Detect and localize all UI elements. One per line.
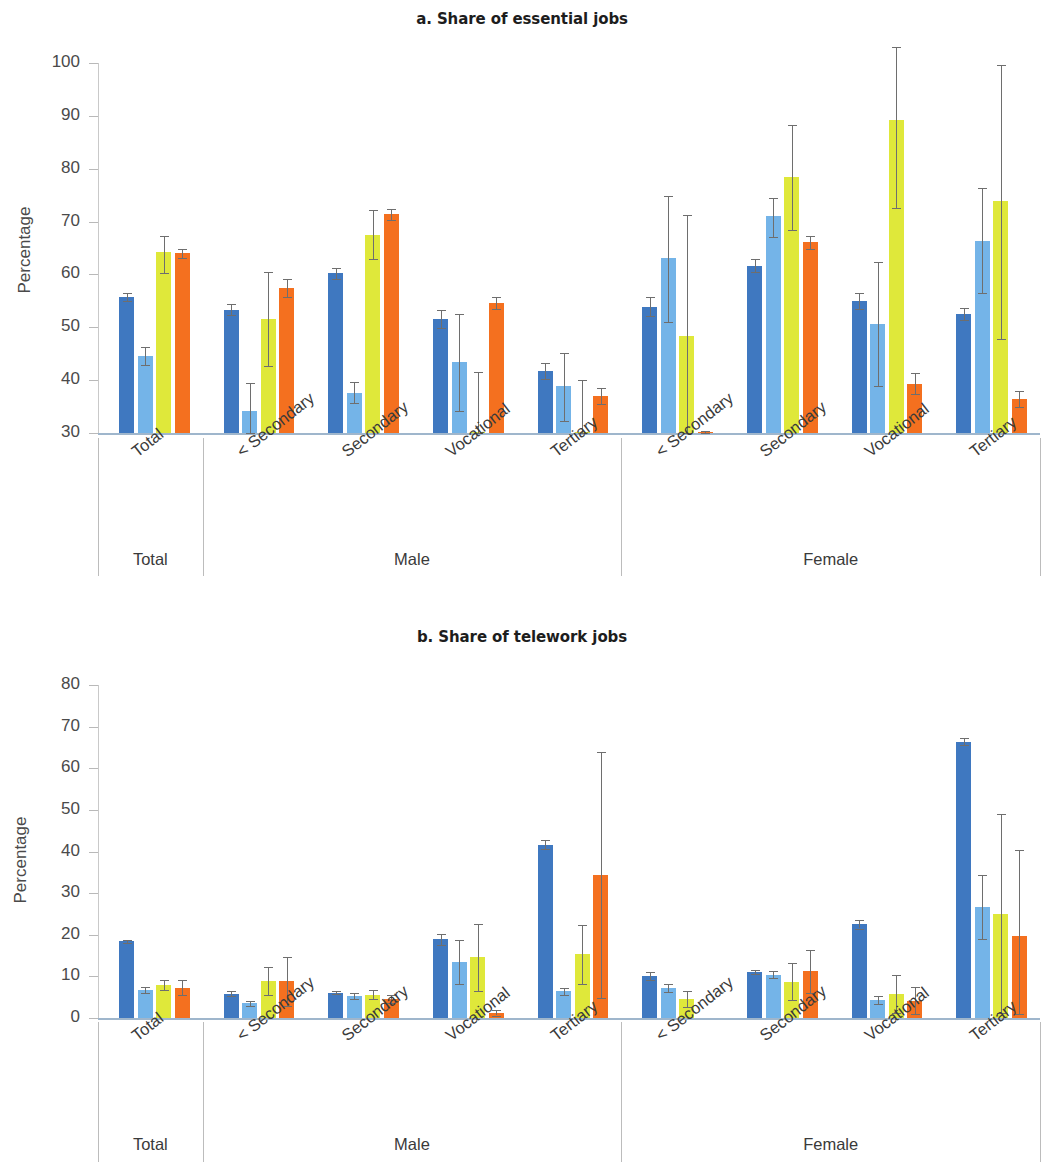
- error-bar-cap-bottom: [350, 403, 359, 404]
- y-tick-label: 80: [61, 675, 80, 692]
- bar: [433, 319, 448, 433]
- error-bar-cap-top: [264, 967, 273, 968]
- error-bar-cap-top: [283, 957, 292, 958]
- error-bar-cap-top: [455, 940, 464, 941]
- error-bar: [859, 293, 860, 309]
- error-bar-cap-top: [960, 308, 969, 309]
- error-bar: [441, 934, 442, 945]
- x-supergroup-label: Male: [203, 550, 622, 569]
- error-bar-cap-top: [141, 987, 150, 988]
- error-bar-cap-bottom: [597, 404, 606, 405]
- error-bar-cap-bottom: [332, 279, 341, 280]
- error-bar-cap-top: [246, 383, 255, 384]
- error-bar-cap-top: [751, 970, 760, 971]
- error-bar: [545, 840, 546, 849]
- error-bar-cap-top: [178, 980, 187, 981]
- chart-panel-telework-jobs: b. Share of telework jobs Percentage 010…: [0, 620, 1044, 1170]
- y-tick-label: 100: [52, 53, 80, 70]
- bar: [956, 314, 971, 433]
- error-bar-cap-top: [597, 752, 606, 753]
- error-bar-cap-top: [123, 940, 132, 941]
- error-bar-cap-bottom: [123, 943, 132, 944]
- error-bar-cap-bottom: [978, 939, 987, 940]
- error-bar: [896, 47, 897, 208]
- error-bar-cap-bottom: [160, 990, 169, 991]
- error-bar-cap-bottom: [369, 259, 378, 260]
- group-separator: [1040, 438, 1041, 576]
- x-supergroup-label: Total: [98, 550, 203, 569]
- error-bar-cap-bottom: [455, 984, 464, 985]
- error-bar: [564, 353, 565, 422]
- error-bar-cap-bottom: [160, 273, 169, 274]
- error-bar-cap-top: [683, 991, 692, 992]
- error-bar: [650, 972, 651, 980]
- x-supergroup-label: Female: [621, 550, 1040, 569]
- error-bar-cap-bottom: [1015, 407, 1024, 408]
- error-bar-cap-top: [369, 210, 378, 211]
- error-bar: [878, 996, 879, 1004]
- error-bar-cap-bottom: [264, 995, 273, 996]
- error-bar-cap-bottom: [646, 980, 655, 981]
- error-bar-cap-top: [646, 297, 655, 298]
- error-bar: [354, 382, 355, 403]
- bar: [224, 310, 239, 433]
- error-bar: [164, 236, 165, 273]
- error-bar-cap-top: [560, 353, 569, 354]
- error-bar: [582, 925, 583, 984]
- error-bar-cap-bottom: [123, 301, 132, 302]
- error-bar-cap-top: [1015, 850, 1024, 851]
- chart-panel-essential-jobs: a. Share of essential jobs Percentage 30…: [0, 0, 1044, 600]
- error-bar: [982, 875, 983, 939]
- error-bar: [164, 980, 165, 990]
- error-bar: [792, 963, 793, 999]
- error-bar-cap-bottom: [437, 328, 446, 329]
- error-bar: [1019, 391, 1020, 407]
- y-tick-label: 60: [61, 758, 80, 775]
- y-tick-mark: [89, 976, 98, 977]
- error-bar-cap-top: [227, 991, 236, 992]
- error-bar-cap-bottom: [769, 237, 778, 238]
- error-bar-cap-bottom: [892, 208, 901, 209]
- error-bar-cap-bottom: [283, 297, 292, 298]
- error-bar-cap-bottom: [227, 315, 236, 316]
- error-bar: [755, 259, 756, 272]
- error-bar: [601, 752, 602, 998]
- error-bar: [545, 363, 546, 378]
- error-bar: [441, 310, 442, 329]
- error-bar-cap-top: [541, 363, 550, 364]
- error-bar-cap-bottom: [474, 991, 483, 992]
- x-supergroup-label: Male: [203, 1135, 622, 1154]
- error-bar-cap-bottom: [855, 309, 864, 310]
- error-bar: [250, 383, 251, 433]
- error-bar: [964, 308, 965, 320]
- error-bar: [373, 990, 374, 999]
- error-bar-cap-top: [578, 925, 587, 926]
- error-bar-cap-bottom: [646, 316, 655, 317]
- error-bar-cap-bottom: [997, 339, 1006, 340]
- error-bar-cap-bottom: [246, 1006, 255, 1007]
- error-bar: [773, 971, 774, 978]
- error-bar-cap-bottom: [437, 945, 446, 946]
- bar: [538, 371, 553, 433]
- bar: [766, 216, 781, 433]
- y-tick-label: 40: [61, 842, 80, 859]
- error-bar-cap-top: [911, 373, 920, 374]
- error-bar-cap-bottom: [541, 849, 550, 850]
- bar: [365, 235, 380, 433]
- error-bar: [182, 249, 183, 257]
- y-tick-label: 40: [61, 370, 80, 387]
- y-axis-label-b: Percentage: [11, 817, 31, 904]
- bar: [956, 742, 971, 1018]
- error-bar: [459, 314, 460, 412]
- error-bar: [792, 125, 793, 230]
- plot-area-b: [98, 623, 1040, 1018]
- error-bar-cap-top: [350, 382, 359, 383]
- error-bar-cap-top: [874, 262, 883, 263]
- error-bar: [668, 196, 669, 322]
- y-tick-mark: [89, 169, 98, 170]
- y-tick-label: 90: [61, 106, 80, 123]
- error-bar: [182, 980, 183, 995]
- error-bar-cap-bottom: [178, 258, 187, 259]
- error-bar-cap-top: [806, 950, 815, 951]
- error-bar: [601, 388, 602, 404]
